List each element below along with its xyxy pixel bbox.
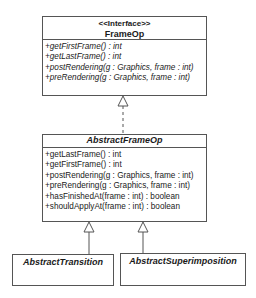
class-header: <<Interface>> FrameOp [43, 17, 206, 40]
generalization-arrowhead-icon [84, 222, 94, 232]
operation: +preRendering(g : Graphics, frame : int) [45, 73, 206, 83]
operation: +getFirstFrame() : int [45, 160, 206, 170]
realization-arrowhead-icon [118, 96, 128, 106]
operation: +getFirstFrame() : int [45, 42, 206, 52]
operations-list: +getFirstFrame() : int +getLastFrame() :… [43, 40, 206, 84]
class-name: AbstractFrameOp [43, 135, 206, 146]
class-frameop: <<Interface>> FrameOp +getFirstFrame() :… [42, 16, 207, 96]
class-abstractframeop: AbstractFrameOp +getLastFrame() : int +g… [42, 134, 207, 222]
class-abstracttransition: AbstractTransition [12, 254, 114, 286]
operation: +postRendering(g : Graphics, frame : int… [45, 63, 206, 73]
stereotype-label: <<Interface>> [43, 17, 206, 29]
operation: +getLastFrame() : int [45, 52, 206, 62]
class-abstractsuperimposition: AbstractSuperimposition [120, 253, 246, 286]
class-name: AbstractTransition [13, 255, 113, 268]
class-name: FrameOp [43, 29, 206, 40]
operations-list: +getLastFrame() : int +getFirstFrame() :… [43, 148, 206, 212]
operation: +preRendering(g : Graphics, frame : int) [45, 181, 206, 191]
class-name: AbstractSuperimposition [121, 254, 245, 267]
operation: +postRendering(g : Graphics, frame : int… [45, 171, 206, 181]
operation: +shouldApplyAt(frame : int) : boolean [45, 202, 206, 212]
class-header: AbstractFrameOp [43, 135, 206, 148]
generalization-arrowhead-icon [138, 222, 148, 232]
operation: +hasFinishedAt(frame : int) : boolean [45, 192, 206, 202]
operation: +getLastFrame() : int [45, 150, 206, 160]
